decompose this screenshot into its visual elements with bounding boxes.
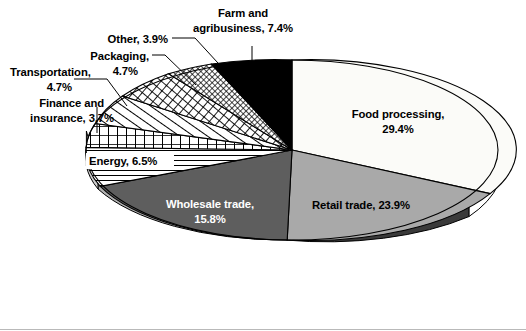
label-energy: Energy, 6.5% bbox=[89, 155, 157, 167]
label-food-processing-line1: Food processing, bbox=[352, 108, 445, 120]
label-packaging-line2: 4.7% bbox=[113, 65, 138, 77]
pie-top-face bbox=[86, 60, 517, 241]
label-wholesale-trade-line1: Wholesale trade, bbox=[166, 198, 254, 210]
label-other: Other, 3.9% bbox=[108, 33, 168, 45]
label-finance-and-insurance-line1: Finance and bbox=[39, 97, 104, 109]
label-packaging-line1: Packaging, bbox=[90, 50, 149, 62]
label-retail-trade: Retail trade, 23.9% bbox=[312, 199, 410, 211]
label-farm-and-agribusiness-line2: agribusiness, 7.4% bbox=[193, 22, 293, 34]
pie-chart-figure: Farm and agribusiness, 7.4% Other, 3.9% … bbox=[0, 0, 526, 331]
pie-chart-svg: Farm and agribusiness, 7.4% Other, 3.9% … bbox=[0, 0, 526, 331]
label-transportation-line2: 4.7% bbox=[47, 81, 72, 93]
label-wholesale-trade-line2: 15.8% bbox=[194, 213, 226, 225]
label-farm-and-agribusiness-line1: Farm and bbox=[218, 7, 268, 19]
label-food-processing-line2: 29.4% bbox=[382, 123, 414, 135]
label-finance-and-insurance-line2: insurance, 3.7% bbox=[30, 112, 114, 124]
label-transportation-line1: Transportation, bbox=[10, 66, 91, 78]
